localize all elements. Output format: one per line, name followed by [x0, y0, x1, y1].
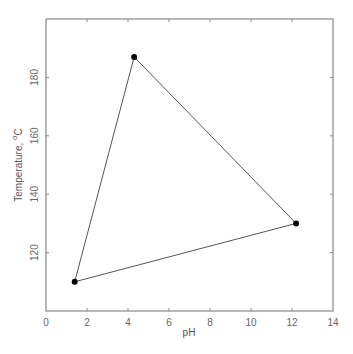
axis-ticks: [46, 19, 333, 311]
data-series: [72, 54, 299, 285]
y-tick-labels: 120140160180: [29, 69, 40, 261]
series-line: [75, 57, 296, 282]
x-tick-label: 4: [125, 317, 131, 328]
x-tick-label: 0: [43, 317, 49, 328]
y-tick-label: 180: [29, 69, 40, 86]
y-axis-label-unit: C: [13, 128, 24, 135]
y-axis-label-text: Temperature,: [13, 140, 24, 202]
y-tick-label: 140: [29, 185, 40, 202]
x-tick-label: 10: [245, 317, 257, 328]
x-axis-label: pH: [183, 327, 196, 338]
x-tick-label: 2: [84, 317, 90, 328]
x-tick-label: 8: [207, 317, 213, 328]
data-point-marker: [72, 279, 78, 285]
y-tick-label: 160: [29, 127, 40, 144]
plot-frame: [46, 19, 333, 311]
x-tick-label: 14: [327, 317, 339, 328]
chart-canvas: 02468101214 120140160180 pH Temperature,…: [0, 0, 353, 354]
plot-border: [46, 19, 333, 311]
x-tick-label: 6: [166, 317, 172, 328]
data-point-marker: [293, 220, 299, 226]
y-axis-label: Temperature, oC: [10, 128, 24, 201]
y-tick-label: 120: [29, 244, 40, 261]
x-tick-label: 12: [286, 317, 298, 328]
data-point-marker: [131, 54, 137, 60]
